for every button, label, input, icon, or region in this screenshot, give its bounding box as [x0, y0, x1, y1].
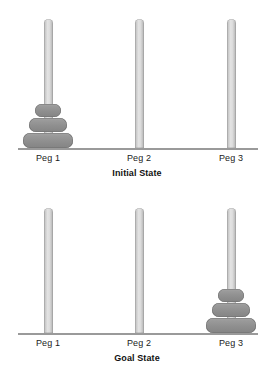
- peg-2-initial[interactable]: [135, 19, 144, 148]
- state-label-goal: Goal State: [0, 353, 274, 363]
- peg-2-label-goal: Peg 2: [109, 338, 169, 348]
- panel-initial-state: Peg 1 Peg 2 Peg 3 Initial State: [0, 0, 274, 190]
- peg-1-goal[interactable]: [44, 208, 53, 333]
- peg-3-label-goal: Peg 3: [201, 338, 261, 348]
- peg-3-initial[interactable]: [227, 19, 236, 148]
- disk-small-initial[interactable]: [35, 104, 61, 117]
- disk-medium-goal[interactable]: [212, 303, 250, 317]
- peg-1-label-initial: Peg 1: [18, 153, 78, 163]
- state-label-initial: Initial State: [0, 168, 274, 178]
- disk-large-initial[interactable]: [23, 133, 73, 148]
- ground-line-initial: [18, 148, 258, 150]
- peg-1-label-goal: Peg 1: [18, 338, 78, 348]
- disk-medium-initial[interactable]: [29, 118, 67, 132]
- panel-goal-state: Peg 1 Peg 2 Peg 3 Goal State: [0, 190, 274, 381]
- peg-2-goal[interactable]: [135, 208, 144, 333]
- disk-small-goal[interactable]: [218, 289, 244, 302]
- disk-large-goal[interactable]: [206, 318, 256, 333]
- peg-3-label-initial: Peg 3: [201, 153, 261, 163]
- peg-2-label-initial: Peg 2: [109, 153, 169, 163]
- ground-line-goal: [18, 333, 258, 335]
